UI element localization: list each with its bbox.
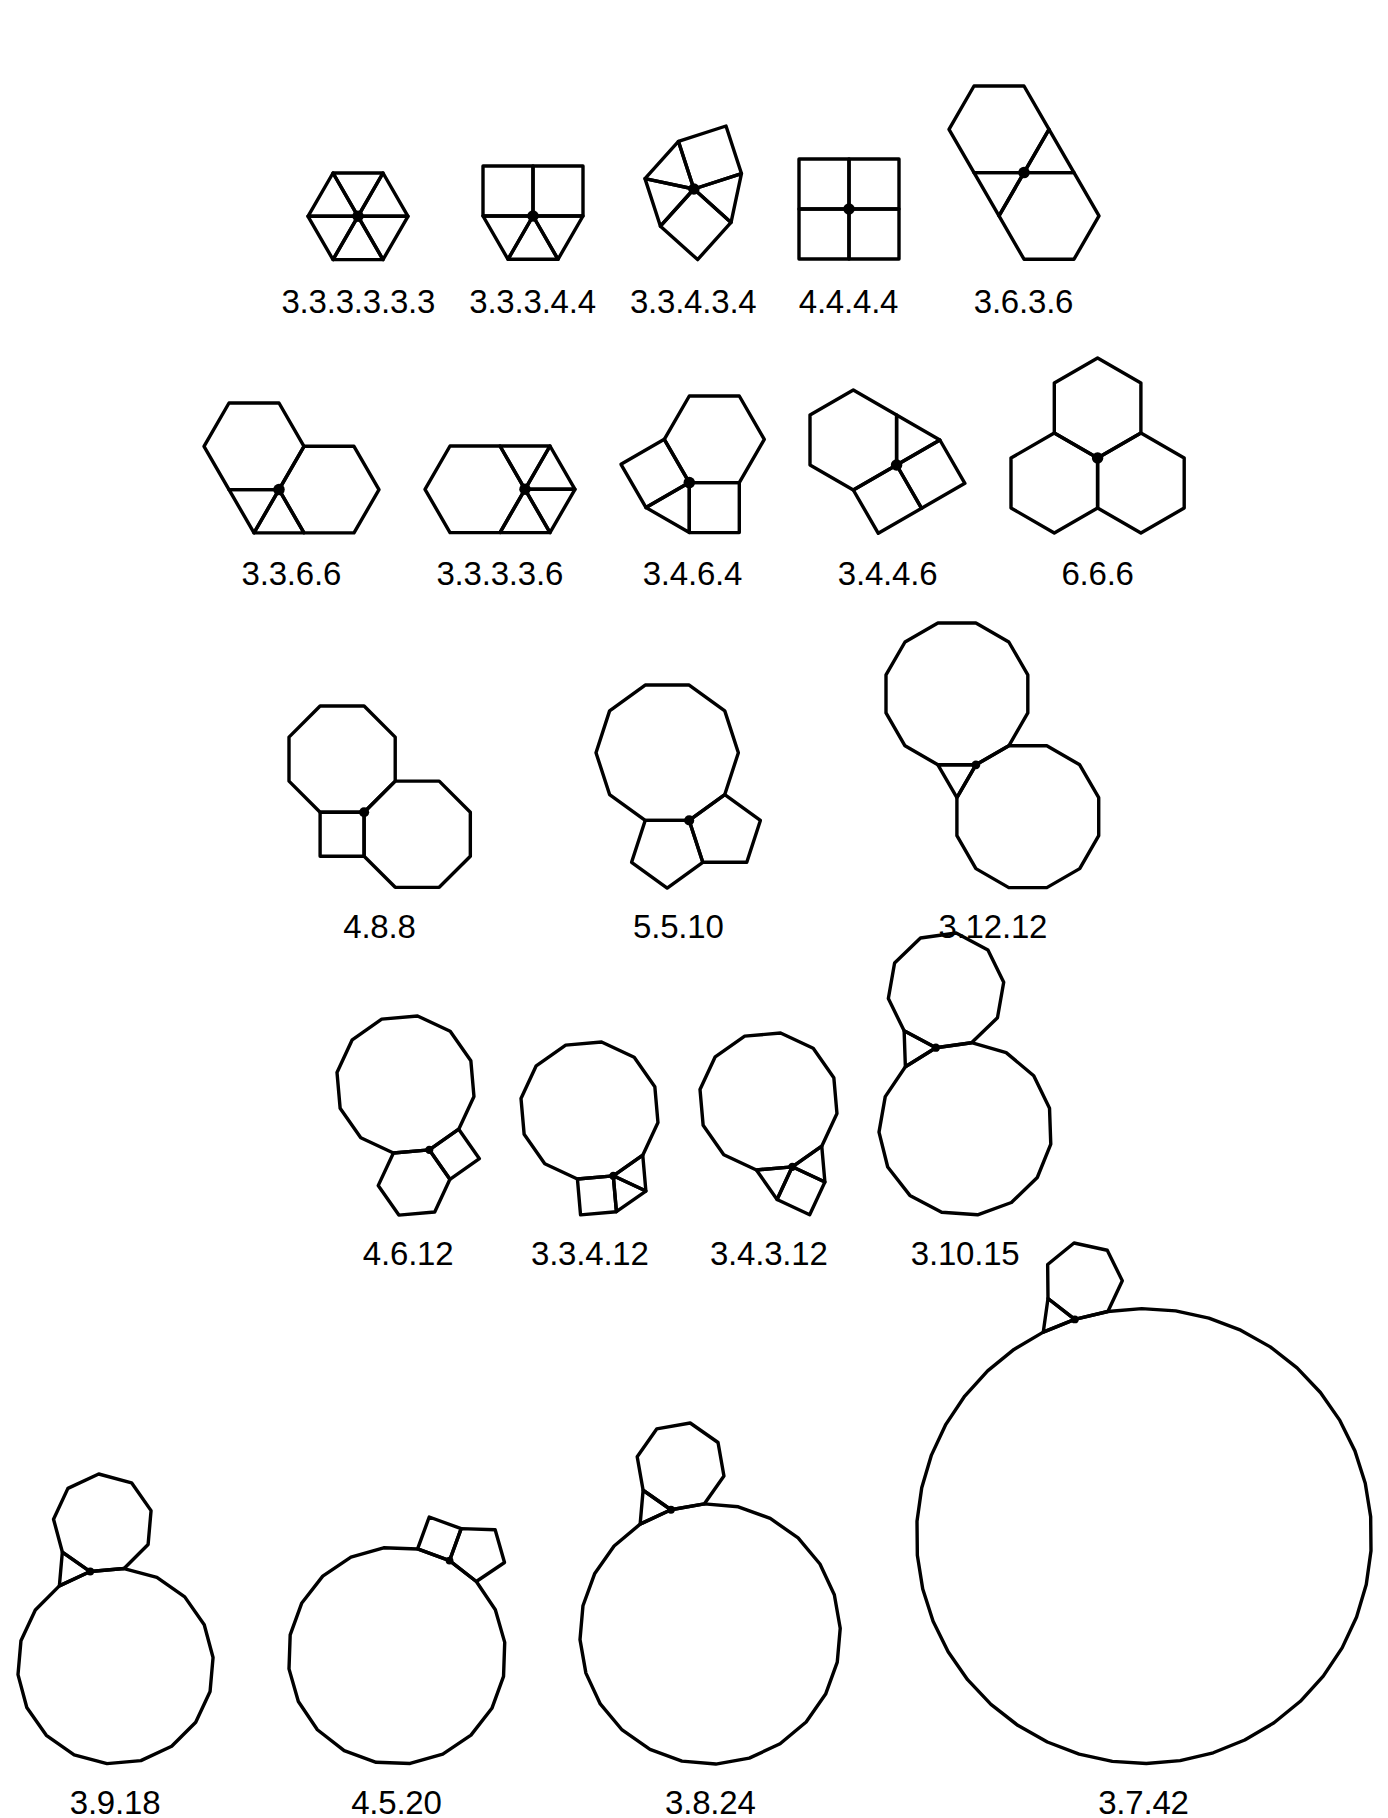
vertex-dot — [667, 1505, 675, 1513]
polygon-arrangement — [417, 438, 583, 541]
polygon-arrangement — [300, 165, 416, 268]
polygon-3-gon — [229, 490, 279, 533]
polygon-arrangement — [1003, 350, 1192, 541]
polygon-3-gon — [500, 446, 550, 489]
diagram-holder — [802, 382, 973, 541]
polygon-3-gon — [500, 490, 550, 533]
vertex-dot — [445, 1557, 453, 1565]
configuration-cell-6-6-6: 6.6.6 — [1003, 350, 1192, 590]
polygon-4-gon — [853, 465, 921, 533]
configuration-label: 3.3.3.3.3.3 — [281, 285, 435, 318]
polygon-3-gon — [694, 173, 742, 222]
diagram-holder — [613, 388, 772, 541]
polygon-3-gon — [646, 483, 689, 533]
vertex-dot — [932, 1044, 940, 1052]
diagram-holder — [637, 118, 749, 268]
polygon-3-gon — [897, 415, 940, 465]
polygon-4-gon — [660, 189, 731, 260]
configuration-label: 4.5.20 — [351, 1786, 442, 1818]
vertex-dot — [609, 1172, 617, 1180]
polygon-arrangement — [588, 677, 768, 896]
polygon-6-gon — [810, 390, 897, 490]
configuration-cell-4-6-12: 4.6.12 — [329, 1008, 487, 1270]
polygon-arrangement — [941, 78, 1107, 267]
polygon-4-gon — [799, 159, 849, 209]
configuration-label: 3.4.6.4 — [643, 557, 743, 590]
polygon-3-gon — [1043, 1298, 1075, 1332]
diagram-holder — [475, 158, 591, 267]
configuration-cell-3-7-42: 3.7.42 — [909, 1235, 1379, 1818]
polygon-arrangement — [281, 698, 478, 895]
configuration-label: 3.6.3.6 — [974, 285, 1074, 318]
polygon-24-gon — [580, 1503, 840, 1763]
vertex-dot — [1070, 1315, 1078, 1323]
configuration-label: 3.3.3.4.4 — [469, 285, 596, 318]
polygon-arrangement — [791, 151, 907, 267]
vertex-dot — [359, 807, 369, 817]
diagram-holder — [513, 1034, 666, 1223]
polygon-4-gon — [621, 440, 689, 508]
configuration-label: 6.6.6 — [1061, 557, 1133, 590]
polygon-arrangement — [613, 388, 772, 541]
configuration-cell-3-9-18: 3.9.18 — [10, 1466, 221, 1818]
configuration-label: 3.4.4.6 — [838, 557, 938, 590]
polygon-4-gon — [533, 166, 583, 216]
polygon-6-gon — [279, 446, 379, 533]
polygon-4-gon — [897, 440, 965, 508]
configuration-label: 3.8.24 — [665, 1786, 756, 1818]
polygon-6-gon — [664, 396, 764, 483]
vertex-dot — [86, 1568, 94, 1576]
configuration-row-2: 4.8.85.5.103.12.12 — [0, 615, 1388, 943]
polygon-12-gon — [886, 623, 1028, 765]
polygon-3-gon — [308, 216, 358, 259]
diagram-holder — [871, 925, 1059, 1223]
configuration-cell-3-12-12: 3.12.12 — [878, 615, 1107, 943]
polygon-arrangement — [909, 1235, 1379, 1772]
polygon-arrangement — [692, 1025, 845, 1223]
polygon-3-gon — [614, 1155, 647, 1191]
polygon-arrangement — [329, 1008, 487, 1223]
polygon-5-gon — [449, 1529, 504, 1582]
polygon-8-gon — [364, 781, 470, 887]
polygon-arrangement — [281, 1509, 513, 1771]
configuration-cell-3-3-6-6: 3.3.6.6 — [196, 395, 387, 590]
polygon-3-gon — [333, 216, 383, 259]
polygon-3-gon — [533, 216, 583, 259]
configuration-row-0: 3.3.3.3.3.33.3.3.4.43.3.4.3.44.4.4.43.6.… — [0, 78, 1388, 318]
polygon-6-gon — [1011, 433, 1098, 533]
configuration-label: 3.3.3.3.6 — [436, 557, 563, 590]
configuration-label: 3.3.6.6 — [242, 557, 342, 590]
diagram-holder — [878, 615, 1107, 896]
configuration-cell-3-3-3-4-4: 3.3.3.4.4 — [469, 158, 596, 318]
configuration-row-4: 3.9.184.5.203.8.243.7.42 — [0, 1235, 1388, 1818]
configuration-label: 3.9.18 — [70, 1786, 161, 1818]
diagram-holder — [10, 1466, 221, 1772]
polygon-3-gon — [525, 490, 575, 533]
polygon-3-gon — [525, 446, 575, 489]
configuration-cell-3-3-4-3-4: 3.3.4.3.4 — [630, 118, 757, 319]
polygon-6-gon — [999, 173, 1099, 260]
polygon-arrangement — [513, 1034, 666, 1223]
configuration-label: 3.3.4.3.4 — [630, 285, 757, 318]
polygon-3-gon — [358, 173, 408, 216]
polygon-3-gon — [308, 173, 358, 216]
polygon-6-gon — [425, 446, 525, 533]
configuration-cell-3-10-15: 3.10.15 — [871, 925, 1059, 1270]
vertex-dot — [683, 477, 694, 488]
polygon-3-gon — [640, 1490, 671, 1524]
polygon-arrangement — [475, 158, 591, 267]
polygon-6-gon — [204, 403, 304, 490]
polygon-arrangement — [196, 395, 387, 541]
vertex-dot — [684, 815, 694, 825]
configuration-cell-3-3-3-3-6: 3.3.3.3.6 — [417, 438, 583, 590]
vertex-dot — [788, 1163, 796, 1171]
diagram-holder — [329, 1008, 487, 1223]
polygon-3-gon — [645, 178, 694, 226]
configuration-cell-3-8-24: 3.8.24 — [572, 1415, 848, 1818]
polygon-arrangement — [878, 615, 1107, 896]
polygon-6-gon — [1054, 358, 1141, 458]
diagram-holder — [572, 1415, 848, 1772]
polygon-3-gon — [974, 173, 1024, 216]
configuration-cell-3-6-3-6: 3.6.3.6 — [941, 78, 1107, 318]
polygon-18-gon — [17, 1569, 212, 1764]
